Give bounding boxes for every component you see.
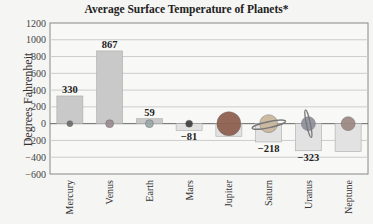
x-tick-label: Jupiter	[223, 179, 234, 207]
y-tick-label: 1200	[26, 18, 46, 29]
y-tick-label: −200	[25, 135, 46, 146]
y-tick-label: 400	[31, 85, 46, 96]
y-tick-label: 0	[41, 118, 46, 129]
data-label: −218	[258, 143, 280, 154]
x-tick-label: Venus	[104, 180, 115, 205]
earth-planet-icon	[145, 120, 153, 128]
mars-planet-icon	[186, 120, 193, 127]
y-tick-label: −600	[25, 169, 46, 180]
y-tick-label: −400	[25, 152, 46, 163]
x-tick-label: Uranus	[303, 180, 314, 209]
x-tick-label: Earth	[144, 180, 155, 202]
data-label: −81	[181, 131, 197, 142]
uranus-planet-icon	[301, 117, 315, 131]
y-tick-label: 600	[31, 68, 46, 79]
data-label: 330	[62, 84, 78, 95]
venus-planet-icon	[106, 120, 114, 128]
data-label: 59	[144, 107, 155, 118]
jupiter-planet-icon	[217, 112, 241, 136]
mercury-planet-icon	[67, 121, 73, 127]
data-label: 867	[102, 39, 118, 50]
x-tick-label: Saturn	[263, 180, 274, 206]
data-label: −323	[298, 152, 320, 163]
y-tick-label: 200	[31, 101, 46, 112]
bar-chart: 120010008006004002000−200−400−600330Merc…	[0, 0, 373, 224]
neptune-planet-icon	[341, 117, 355, 131]
x-tick-label: Neptune	[343, 179, 354, 213]
bar-venus	[97, 51, 123, 124]
bar-mercury	[57, 96, 83, 124]
x-tick-label: Mercury	[64, 180, 75, 214]
y-tick-label: 800	[31, 51, 46, 62]
y-tick-label: 1000	[26, 34, 46, 45]
x-tick-label: Mars	[184, 180, 195, 201]
